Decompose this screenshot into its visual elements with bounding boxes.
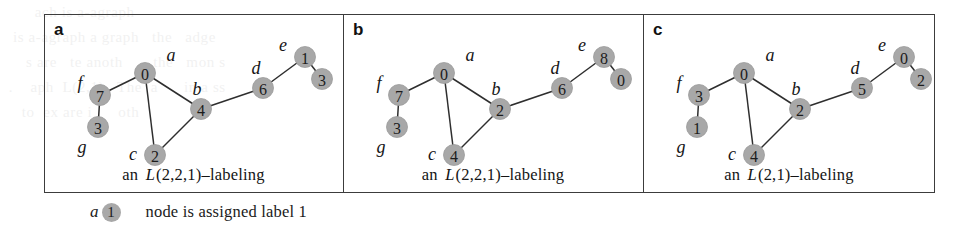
- node-name-c: c: [428, 144, 436, 164]
- node-label-a: 0: [440, 66, 448, 83]
- node-label-b: 2: [796, 102, 804, 119]
- node-name-f: f: [676, 73, 684, 93]
- panel-caption-c: an L(2,1)–labeling: [643, 165, 935, 185]
- node-label-a: 0: [740, 66, 748, 83]
- panel-b: b0a7f3g4c2b6d8e0han L(2,2,1)–labeling: [343, 14, 643, 193]
- caption-suffix: (2,2,1)–labeling: [456, 165, 565, 184]
- node-c: 4c: [728, 144, 765, 166]
- caption-math-symbol: L: [143, 165, 156, 184]
- node-label-f: 3: [695, 88, 703, 105]
- node-label-f: 7: [395, 88, 403, 105]
- node-a: 0a: [434, 45, 475, 84]
- node-label-g: 3: [94, 120, 102, 137]
- edge-a-c: [744, 73, 754, 155]
- node-f: 7f: [77, 73, 110, 106]
- node-label-e: 8: [600, 50, 608, 67]
- node-g: 3g: [377, 117, 408, 158]
- node-label-f: 7: [96, 88, 104, 105]
- node-f: 3f: [676, 73, 709, 106]
- node-a: 0a: [734, 45, 775, 84]
- node-name-d: d: [551, 58, 561, 78]
- node-e: 1e: [279, 35, 316, 68]
- node-d: 6d: [252, 58, 274, 99]
- node-label-b: 4: [197, 102, 205, 119]
- node-label-d: 5: [858, 81, 866, 98]
- node-name-e: e: [578, 35, 586, 55]
- caption-prefix: an: [724, 165, 744, 184]
- node-name-g: g: [677, 137, 686, 157]
- legend-description: node is assigned label 1: [146, 202, 308, 222]
- node-g: 3g: [78, 117, 109, 158]
- node-label-c: 4: [750, 148, 758, 165]
- node-label-d: 6: [558, 81, 566, 98]
- node-b: 2b: [790, 79, 811, 120]
- node-name-a: a: [466, 45, 475, 65]
- node-h: 3h: [312, 64, 344, 90]
- node-f: 7f: [376, 73, 409, 106]
- node-label-h: 3: [318, 72, 326, 89]
- node-d: 6d: [551, 58, 573, 99]
- node-name-b: b: [792, 79, 801, 99]
- legend-node-name: a: [90, 202, 99, 222]
- node-label-d: 6: [259, 81, 267, 98]
- node-c: 4c: [428, 144, 465, 166]
- node-b: 2b: [490, 79, 511, 120]
- node-name-g: g: [78, 137, 87, 157]
- panel-a: a0a7f3g2c4b6d1e3han L(2,2,1)–labeling: [44, 14, 343, 193]
- caption-suffix: (2,1)–labeling: [758, 165, 854, 184]
- caption-suffix: (2,2,1)–labeling: [156, 165, 265, 184]
- caption-math-symbol: L: [442, 165, 455, 184]
- node-name-e: e: [279, 35, 287, 55]
- node-name-f: f: [376, 73, 384, 93]
- node-label-a: 0: [141, 66, 149, 83]
- caption-prefix: an: [422, 165, 442, 184]
- node-b: 4b: [191, 79, 212, 120]
- panel-caption-b: an L(2,2,1)–labeling: [343, 165, 643, 185]
- node-name-d: d: [252, 58, 262, 78]
- node-label-b: 2: [496, 102, 504, 119]
- node-name-a: a: [167, 45, 176, 65]
- node-name-g: g: [377, 137, 386, 157]
- legend-node-circle: 1: [102, 203, 121, 222]
- node-name-d: d: [851, 58, 861, 78]
- node-e: 0e: [878, 35, 915, 68]
- edge-a-c: [145, 73, 155, 155]
- node-label-h: 0: [617, 72, 625, 89]
- node-name-c: c: [728, 144, 736, 164]
- node-name-b: b: [193, 79, 202, 99]
- caption-prefix: an: [122, 165, 142, 184]
- node-name-a: a: [766, 45, 775, 65]
- node-d: 5d: [851, 58, 873, 99]
- edge-a-c: [444, 73, 454, 155]
- node-label-h: 2: [917, 72, 925, 89]
- panel-c: c0a3f1g4c2b5d0e2han L(2,1)–labeling: [643, 14, 935, 193]
- node-c: 2c: [129, 144, 166, 166]
- node-name-e: e: [878, 35, 886, 55]
- panel-caption-a: an L(2,2,1)–labeling: [44, 165, 343, 185]
- node-h: 2h: [911, 64, 936, 90]
- node-label-g: 3: [393, 120, 401, 137]
- node-h: 0h: [611, 64, 644, 90]
- node-e: 8e: [578, 35, 615, 68]
- node-label-c: 4: [450, 148, 458, 165]
- node-a: 0a: [135, 45, 176, 84]
- node-label-e: 0: [900, 50, 908, 67]
- node-name-b: b: [492, 79, 501, 99]
- node-name-f: f: [77, 73, 85, 93]
- node-name-c: c: [129, 144, 137, 164]
- caption-math-symbol: L: [745, 165, 758, 184]
- node-label-c: 2: [151, 148, 159, 165]
- node-label-g: 1: [693, 120, 701, 137]
- legend-node-label: 1: [107, 204, 115, 221]
- node-label-e: 1: [301, 50, 309, 67]
- figure-legend: a 1 node is assigned label 1: [90, 198, 307, 226]
- node-g: 1g: [677, 117, 708, 158]
